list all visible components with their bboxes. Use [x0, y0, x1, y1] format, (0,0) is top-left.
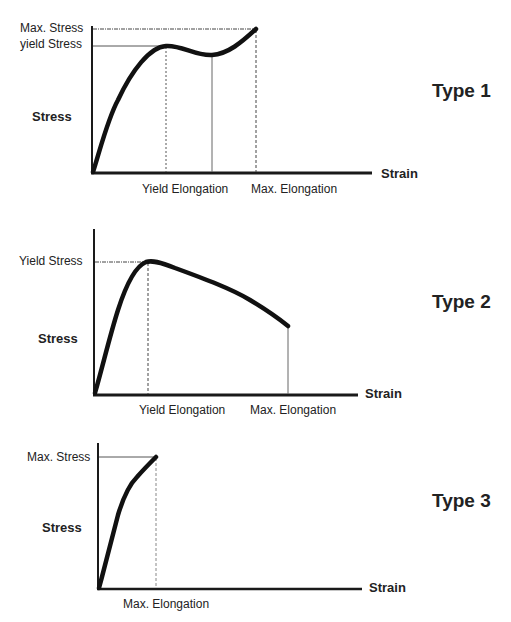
- type3-curve: [99, 457, 156, 588]
- type1-chart: [91, 26, 372, 174]
- type1-max-elongation-label: Max. Elongation: [251, 182, 337, 196]
- type1-title: Type 1: [432, 80, 491, 102]
- type2-chart: [93, 229, 358, 396]
- type1-yield-elongation-label: Yield Elongation: [142, 182, 228, 196]
- type1-max-stress-label: Max. Stress: [20, 21, 83, 35]
- type2-stress-label: Stress: [38, 331, 78, 346]
- type2-title: Type 2: [432, 291, 491, 313]
- type2-yield-stress-label: Yield Stress: [19, 254, 83, 268]
- type1-stress-label: Stress: [32, 109, 72, 124]
- type3-strain-label: Strain: [369, 580, 406, 595]
- type2-max-elongation-label: Max. Elongation: [250, 403, 336, 417]
- type3-chart: [97, 443, 362, 590]
- type3-max-elongation-label: Max. Elongation: [123, 597, 209, 611]
- type3-max-stress-label: Max. Stress: [27, 450, 90, 464]
- type1-curve: [93, 29, 256, 172]
- type2-yield-elongation-label: Yield Elongation: [139, 403, 225, 417]
- type3-stress-label: Stress: [42, 520, 82, 535]
- type2-strain-label: Strain: [365, 386, 402, 401]
- type1-strain-label: Strain: [381, 166, 418, 181]
- type1-yield-stress-label: yield Stress: [20, 37, 82, 51]
- type3-title: Type 3: [432, 490, 491, 512]
- type2-curve: [95, 261, 288, 393]
